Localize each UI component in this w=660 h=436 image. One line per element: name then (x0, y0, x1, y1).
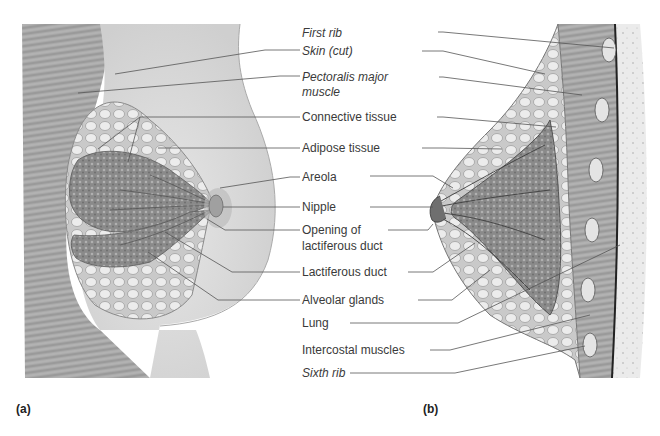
label-intercostal-muscles: Intercostal muscles (302, 343, 407, 357)
panel-tag-b: (b) (423, 402, 438, 416)
label-lung: Lung (302, 316, 331, 330)
label-lactiferous-duct: Lactiferous duct (302, 265, 389, 279)
label-pectoralis-muscle: muscle (302, 85, 342, 99)
anatomy-figure: First rib Skin (cut) Pectoralis major mu… (0, 0, 660, 436)
label-connective-tissue: Connective tissue (302, 110, 399, 124)
label-pectoralis-major: Pectoralis major (302, 70, 390, 84)
panel-b-illustration (430, 24, 647, 378)
label-nipple: Nipple (302, 200, 338, 214)
label-alveolar-glands: Alveolar glands (302, 293, 386, 307)
panel-tag-a: (a) (16, 402, 31, 416)
label-areola: Areola (302, 170, 339, 184)
panel-a-illustration (22, 24, 275, 378)
label-opening-lactiferous-duct: lactiferous duct (302, 239, 385, 253)
label-first-rib: First rib (302, 26, 344, 40)
label-opening-of: Opening of (302, 223, 363, 237)
label-sixth-rib: Sixth rib (302, 366, 347, 380)
label-adipose-tissue: Adipose tissue (302, 141, 382, 155)
label-skin-cut: Skin (cut) (302, 44, 355, 58)
